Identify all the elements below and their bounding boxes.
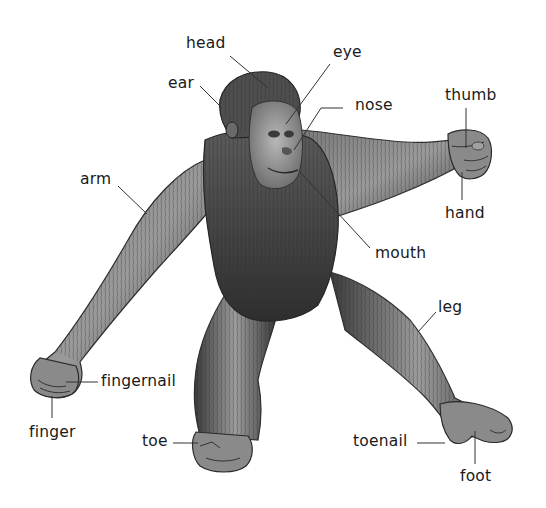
- left-arm: [31, 160, 214, 398]
- orangutan-illustration: [0, 0, 546, 508]
- label-fingernail: fingernail: [101, 374, 176, 390]
- label-hand: hand: [445, 206, 485, 222]
- right-leg: [330, 272, 512, 443]
- label-thumb: thumb: [445, 88, 497, 104]
- label-toe: toe: [142, 434, 168, 450]
- label-ear: ear: [168, 76, 194, 92]
- orangutan-anatomy-diagram: head ear eye nose thumb hand arm mouth l…: [0, 0, 546, 508]
- label-toenail: toenail: [353, 434, 407, 450]
- leader-arm: [118, 186, 147, 214]
- label-nose: nose: [355, 98, 393, 114]
- label-leg: leg: [438, 300, 462, 316]
- label-mouth: mouth: [375, 246, 426, 262]
- label-arm: arm: [80, 172, 111, 188]
- label-foot: foot: [460, 469, 491, 485]
- label-eye: eye: [333, 45, 362, 61]
- leader-leg: [418, 312, 436, 332]
- leader-ear: [200, 86, 222, 108]
- label-head: head: [186, 36, 226, 52]
- label-finger: finger: [29, 425, 76, 441]
